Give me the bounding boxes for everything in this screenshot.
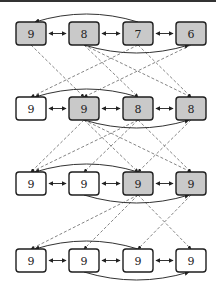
node-label: 8 [81,28,88,41]
state-node: 9 [69,249,99,272]
node-label: 9 [28,28,35,41]
state-node: 8 [176,97,206,120]
node-label: 6 [188,28,195,41]
state-node: 9 [16,249,46,272]
node-label: 9 [81,255,88,268]
state-node: 9 [123,249,153,272]
state-node: 6 [176,22,206,45]
state-node: 8 [123,97,153,120]
node-label: 9 [135,178,142,191]
state-node: 9 [16,22,46,45]
node-label: 9 [188,255,195,268]
state-node: 9 [123,172,153,195]
state-node: 9 [16,172,46,195]
state-node: 9 [176,172,206,195]
state-node: 9 [176,249,206,272]
node-label: 9 [188,178,195,191]
node-label: 7 [135,28,142,41]
node-label: 9 [28,255,35,268]
arc-over-edge [35,241,138,249]
state-node: 7 [123,22,153,45]
arc-over-edge [35,14,138,22]
node-label: 9 [81,178,88,191]
node-label: 9 [28,178,35,191]
nodes: 9876998899999999 [16,22,206,272]
arc-under-edge [84,45,189,53]
state-node: 9 [69,172,99,195]
node-label: 9 [81,103,88,116]
node-label: 8 [188,103,195,116]
state-node: 9 [16,97,46,120]
state-transition-diagram: 9876998899999999 [0,0,216,286]
node-label: 8 [135,103,142,116]
arc-edges [35,14,189,280]
state-node: 9 [69,97,99,120]
node-label: 9 [28,103,35,116]
node-label: 9 [135,255,142,268]
dashed-edges [31,45,191,249]
arc-under-edge [84,272,189,280]
state-node: 8 [69,22,99,45]
arc-over-edge [35,164,138,172]
